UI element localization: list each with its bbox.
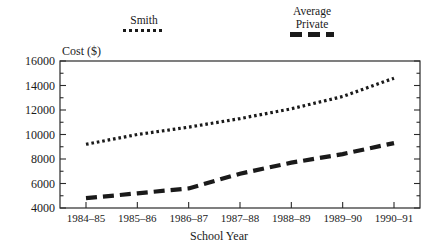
plot-axis-ticks: [60, 61, 420, 208]
plot-frame: [60, 61, 420, 208]
plot-border: [60, 61, 420, 208]
plot-area: [0, 0, 438, 250]
chart-figure: Smith Average Private Cost ($) School Ye…: [0, 0, 438, 250]
plot-series-group: [86, 78, 394, 198]
series-line-average-private: [86, 143, 394, 198]
series-line-smith: [86, 78, 394, 144]
